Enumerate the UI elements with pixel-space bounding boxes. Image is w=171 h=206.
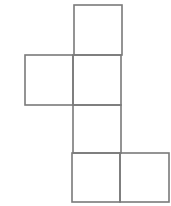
cube-face-top: [74, 5, 122, 55]
cube-face-bottom-left: [72, 153, 120, 202]
cube-face-center-1: [73, 55, 121, 105]
cube-face-left: [25, 55, 73, 105]
cube-face-center-2: [73, 105, 121, 153]
cube-face-bottom-right: [120, 153, 169, 202]
cube-net-faces: [25, 5, 169, 202]
cube-net-diagram: [0, 0, 171, 206]
